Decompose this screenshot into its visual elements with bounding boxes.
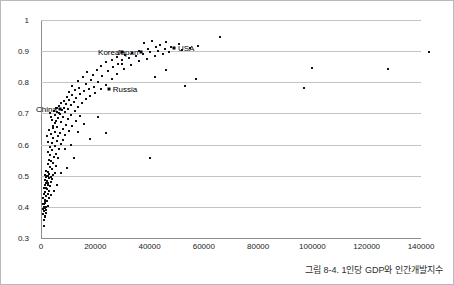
- data-point: [55, 120, 57, 122]
- data-point: [50, 176, 52, 178]
- figure-caption: 그림 8-4. 1인당 GDP와 인간개발지수: [305, 263, 443, 276]
- data-point: [149, 51, 151, 53]
- data-point: [52, 162, 54, 164]
- data-point: [138, 60, 140, 62]
- data-point: [50, 194, 52, 196]
- highlighted-point-usa: [173, 47, 176, 50]
- point-label-china: China: [36, 105, 57, 114]
- data-point: [52, 127, 54, 129]
- data-point: [195, 78, 197, 80]
- data-point: [51, 142, 53, 144]
- data-point: [58, 148, 60, 150]
- data-point: [46, 135, 48, 137]
- highlighted-point-russia: [107, 88, 110, 91]
- data-point: [101, 75, 103, 77]
- data-point: [57, 157, 59, 159]
- data-point: [97, 116, 99, 118]
- data-point: [48, 129, 50, 131]
- data-point: [105, 132, 107, 134]
- data-point: [90, 79, 92, 81]
- data-point: [105, 84, 107, 86]
- data-point: [100, 65, 102, 67]
- data-point: [47, 182, 49, 184]
- data-point: [71, 125, 73, 127]
- data-point: [45, 175, 47, 177]
- x-tick-60000: 60000: [193, 242, 215, 251]
- data-point: [51, 149, 53, 151]
- highlighted-point-china: [59, 108, 62, 111]
- data-point: [89, 138, 91, 140]
- data-point: [64, 148, 66, 150]
- data-point: [117, 63, 119, 65]
- data-point: [54, 172, 56, 174]
- data-point: [66, 96, 68, 98]
- data-point: [56, 126, 58, 128]
- data-point: [47, 151, 49, 153]
- data-point: [75, 120, 77, 122]
- figure-container: ChinaRussiaKoreaJapanUSA 0.30.40.50.60.7…: [0, 0, 454, 285]
- data-point: [58, 112, 60, 114]
- data-point: [111, 59, 113, 61]
- data-point: [94, 92, 96, 94]
- data-point: [52, 174, 54, 176]
- data-point: [97, 81, 99, 83]
- data-point: [387, 68, 389, 70]
- data-point: [121, 63, 123, 65]
- data-point: [71, 94, 73, 96]
- data-point: [68, 91, 70, 93]
- data-point: [47, 193, 49, 195]
- data-point: [89, 95, 91, 97]
- data-point: [43, 225, 45, 227]
- data-point: [50, 116, 52, 118]
- data-point: [92, 74, 94, 76]
- data-point: [165, 69, 167, 71]
- data-point: [67, 118, 69, 120]
- point-label-japan: Japan: [117, 48, 139, 57]
- data-point: [54, 131, 56, 133]
- gridline-y-0.4: [41, 207, 421, 208]
- y-tick-0.5: 0.5: [18, 171, 29, 180]
- data-point: [52, 137, 54, 139]
- data-point: [54, 145, 56, 147]
- data-point: [60, 121, 62, 123]
- data-point: [57, 135, 59, 137]
- data-point: [157, 50, 159, 52]
- data-point: [44, 200, 46, 202]
- data-point: [82, 76, 84, 78]
- data-point: [67, 108, 69, 110]
- data-point: [162, 53, 164, 55]
- data-point: [43, 193, 45, 195]
- data-point: [62, 116, 64, 118]
- data-point: [59, 132, 61, 134]
- gridline-y-0.6: [41, 145, 421, 146]
- data-point: [428, 51, 430, 53]
- y-tick-0.8: 0.8: [18, 78, 29, 87]
- data-point: [143, 42, 145, 44]
- data-point: [155, 46, 157, 48]
- data-point: [50, 181, 52, 183]
- data-point: [70, 104, 72, 106]
- data-point: [154, 76, 156, 78]
- data-point: [77, 80, 79, 82]
- data-point: [71, 85, 73, 87]
- data-point: [165, 41, 167, 43]
- data-point: [53, 190, 55, 192]
- data-point: [70, 114, 72, 116]
- data-point: [49, 154, 51, 156]
- data-point: [64, 111, 66, 113]
- data-point: [50, 160, 52, 162]
- data-point: [184, 85, 186, 87]
- data-point: [62, 128, 64, 130]
- data-point: [105, 61, 107, 63]
- data-point: [197, 45, 199, 47]
- gridline-y-0.7: [41, 113, 421, 114]
- data-point: [74, 89, 76, 91]
- data-point: [47, 205, 49, 207]
- data-point: [73, 157, 75, 159]
- data-point: [85, 83, 87, 85]
- data-point: [47, 163, 49, 165]
- data-point: [49, 146, 51, 148]
- data-point: [70, 144, 72, 146]
- data-point: [48, 190, 50, 192]
- data-point: [57, 117, 59, 119]
